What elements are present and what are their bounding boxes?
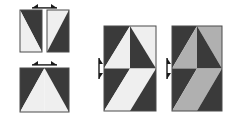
figure-root	[0, 0, 226, 118]
tile-mountain	[20, 68, 69, 112]
tile-pinwheel-gray	[172, 26, 222, 111]
arrow-shaft	[32, 7, 57, 8]
tile-diagonal-a	[20, 10, 42, 52]
arrow-shaft	[98, 58, 99, 79]
arrow-shaft	[166, 58, 167, 79]
tile-pinwheel-light	[104, 26, 156, 111]
tile-symmetry-diagram	[0, 0, 226, 118]
tile-diagonal-b	[47, 10, 69, 52]
arrow-shaft	[32, 64, 57, 65]
